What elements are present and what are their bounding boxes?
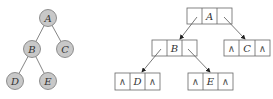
linked-tree: A B ∧ C ∧ ∧ D ∧ [115,8,270,90]
null-pointer-left: ∧ [228,43,235,54]
node-label: A [43,13,51,24]
node-label: D [132,76,141,87]
linked-node-d: ∧ D ∧ [115,73,160,90]
node-label: C [243,43,251,54]
node-label: E [43,76,52,87]
circle-tree: A B C D E [7,10,74,90]
node-label: C [61,44,69,55]
pointer-b-right [188,49,210,72]
tree-node-e: E [40,73,57,90]
null-pointer-right: ∧ [259,43,266,54]
tree-node-b: B [24,41,41,58]
pointer-a-right [224,17,245,39]
binary-tree-diagram: A B C D E A B [0,0,273,99]
node-label: B [27,44,35,55]
node-label: E [206,76,215,87]
null-pointer-left: ∧ [119,76,126,87]
tree-node-d: D [7,73,24,90]
null-pointer-left: ∧ [192,76,199,87]
tree-node-a: A [40,10,57,27]
pointer-b-left [142,49,161,72]
linked-node-e: ∧ E ∧ [188,73,233,90]
tree-node-c: C [57,41,74,58]
null-pointer-right: ∧ [149,76,156,87]
node-label: B [170,43,178,54]
linked-node-c: ∧ C ∧ [224,40,270,56]
node-label: D [10,76,19,87]
node-label: A [205,11,213,22]
linked-node-b: B [152,40,197,56]
null-pointer-right: ∧ [222,76,229,87]
